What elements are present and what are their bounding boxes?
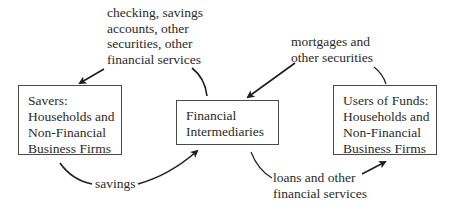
- node-line: Intermediaries: [186, 124, 278, 140]
- label-line: securities, other: [107, 36, 203, 52]
- securities-curve: [374, 67, 386, 84]
- node-line: Business Firms: [28, 141, 121, 157]
- node-line: Non-Financial: [343, 125, 436, 141]
- securities-to-intermediaries-arrow: [248, 63, 295, 97]
- label-line: other securities: [291, 50, 373, 66]
- node-line: Savers:: [28, 93, 121, 109]
- node-line: Business Firms: [343, 141, 436, 157]
- intermediaries-node: Financial Intermediaries: [176, 100, 279, 145]
- label-line: accounts, other: [107, 21, 203, 37]
- node-line: Financial: [186, 108, 278, 124]
- node-line: Households and: [28, 109, 121, 125]
- savings-curve: [60, 163, 92, 184]
- users-node: Users of Funds: Households and Non-Finan…: [333, 85, 437, 155]
- savings-to-intermediaries-arrow: [138, 151, 197, 184]
- node-line: Non-Financial: [28, 125, 121, 141]
- node-line: Households and: [343, 109, 436, 125]
- services-curve: [192, 68, 207, 96]
- label-line: loans and other: [273, 170, 367, 186]
- label-line: checking, savings: [107, 5, 203, 21]
- label-line: financial services: [273, 186, 367, 202]
- savings-label: savings: [95, 176, 136, 192]
- label-line: savings: [95, 176, 136, 192]
- loans-label: loans and other financial services: [273, 170, 367, 201]
- loans-curve: [251, 152, 272, 178]
- label-line: mortgages and: [291, 34, 373, 50]
- savers-node: Savers: Households and Non-Financial Bus…: [18, 85, 122, 155]
- label-line: financial services: [107, 52, 203, 68]
- securities-label: mortgages and other securities: [291, 34, 373, 65]
- node-line: Users of Funds:: [343, 93, 436, 109]
- services-label: checking, savings accounts, other securi…: [107, 5, 203, 67]
- services-to-savers-arrow: [80, 69, 104, 83]
